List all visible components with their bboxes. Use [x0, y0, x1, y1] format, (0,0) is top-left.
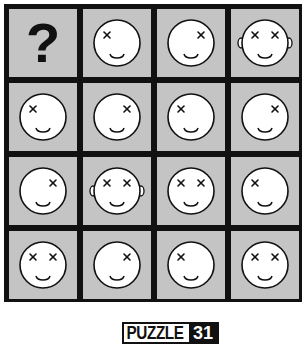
face-icon — [157, 231, 225, 299]
face-icon — [83, 83, 151, 151]
face-cell — [9, 83, 77, 151]
face-icon — [231, 9, 299, 77]
face-icon — [83, 157, 151, 225]
face-cell — [231, 157, 299, 225]
face-cell — [9, 231, 77, 299]
face-cell — [83, 157, 151, 225]
question-cell: ? — [9, 9, 77, 77]
puzzle-grid: ? — [4, 4, 302, 302]
face-icon — [83, 9, 151, 77]
face-cell — [157, 9, 225, 77]
face-icon — [9, 157, 77, 225]
face-cell — [83, 9, 151, 77]
face-icon — [157, 157, 225, 225]
face-cell — [157, 231, 225, 299]
face-icon — [83, 231, 151, 299]
face-icon — [231, 231, 299, 299]
face-cell — [9, 157, 77, 225]
face-icon — [231, 83, 299, 151]
face-icon — [9, 83, 77, 151]
face-cell — [83, 83, 151, 151]
face-cell — [83, 231, 151, 299]
face-cell — [157, 157, 225, 225]
face-icon — [157, 83, 225, 151]
face-icon — [9, 231, 77, 299]
puzzle-number: 31 — [189, 324, 217, 342]
question-mark-icon: ? — [9, 9, 77, 77]
face-icon — [157, 9, 225, 77]
face-cell — [231, 83, 299, 151]
face-cell — [231, 231, 299, 299]
face-cell — [157, 83, 225, 151]
face-cell — [231, 9, 299, 77]
puzzle-title: PUZZLE — [124, 324, 186, 342]
face-icon — [231, 157, 299, 225]
puzzle-label: PUZZLE 31 — [122, 322, 219, 344]
